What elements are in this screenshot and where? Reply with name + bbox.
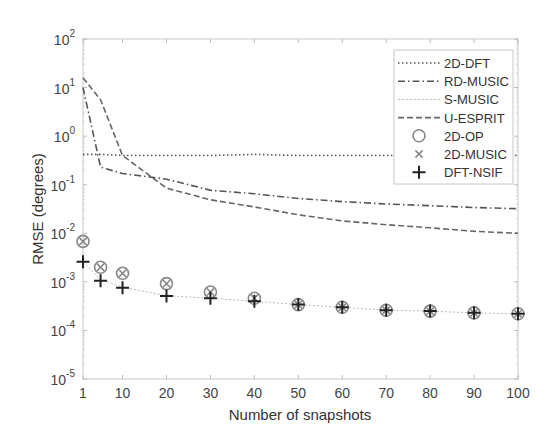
y-axis-title: RMSE (degrees): [29, 153, 46, 265]
legend-label: 2D-DFT: [444, 56, 490, 71]
legend-label: U-ESPRIT: [444, 111, 505, 126]
x-tick-label: 30: [203, 385, 219, 401]
x-tick-label: 10: [115, 385, 131, 401]
x-tick-label: 50: [291, 385, 307, 401]
x-tick-label: 70: [378, 385, 394, 401]
x-tick-labels: 1102030405060708090100: [79, 385, 530, 401]
y-tick-label: 10-3: [51, 271, 76, 291]
legend-label: RD-MUSIC: [444, 74, 509, 89]
legend-label: 2D-MUSIC: [444, 147, 507, 162]
y-tick-label: 10-4: [51, 319, 76, 339]
x-tick-label: 100: [506, 385, 530, 401]
y-tick-label: 10-1: [51, 174, 76, 194]
y-tick-label: 10-2: [51, 222, 76, 242]
x-tick-label: 90: [466, 385, 482, 401]
legend: 2D-DFTRD-MUSICS-MUSICU-ESPRIT2D-OP2D-MUS…: [394, 50, 513, 184]
y-tick-label: 102: [54, 28, 76, 48]
x-tick-label: 1: [79, 385, 87, 401]
x-tick-label: 80: [422, 385, 438, 401]
legend-label: 2D-OP: [444, 129, 484, 144]
y-tick-label: 101: [54, 77, 76, 97]
y-tick-label: 100: [54, 125, 76, 145]
legend-label: DFT-NSIF: [444, 165, 503, 180]
y-tick-labels: 10-510-410-310-210-1100101102: [51, 28, 76, 388]
x-axis-title: Number of snapshots: [229, 406, 372, 423]
legend-label: S-MUSIC: [444, 92, 499, 107]
x-tick-label: 40: [247, 385, 263, 401]
rmse-chart: 1102030405060708090100 10-510-410-310-21…: [0, 0, 558, 444]
x-tick-label: 20: [159, 385, 175, 401]
y-tick-label: 10-5: [51, 368, 76, 388]
x-tick-label: 60: [334, 385, 350, 401]
